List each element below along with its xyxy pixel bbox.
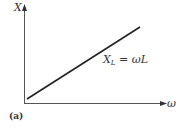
y-axis-arrow-icon xyxy=(22,4,27,11)
x-axis-label: ω xyxy=(167,98,176,109)
y-axis-label: X xyxy=(14,2,22,13)
chart-plot xyxy=(0,0,187,128)
annotation-rest: = ωL xyxy=(116,53,148,66)
chart-figure: X ω XL = ωL (a) xyxy=(0,0,187,128)
annotation-main: X xyxy=(103,53,111,66)
panel-label: (a) xyxy=(9,112,23,121)
series-annotation: XL = ωL xyxy=(103,54,148,67)
x-axis-arrow-icon xyxy=(160,101,167,106)
